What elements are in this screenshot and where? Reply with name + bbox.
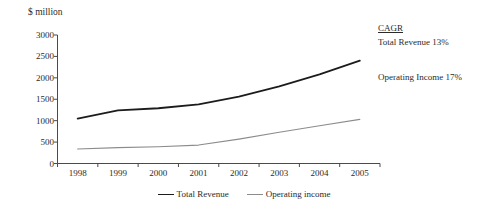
series-line-1 xyxy=(78,119,360,149)
x-axis-tick-labels: 19981999200020012002200320042005 xyxy=(0,168,488,182)
line-chart: $ million 050010001500200025003000 19981… xyxy=(0,0,488,211)
y-axis-ticks xyxy=(54,35,58,164)
legend-line-swatch-icon xyxy=(158,194,174,195)
x-axis-tick-label: 2000 xyxy=(149,168,167,178)
series-lines xyxy=(78,61,360,149)
y-axis-tick-label: 0 xyxy=(24,159,54,169)
cagr-annotation-block: CAGR Total Revenue 13% Operating Income … xyxy=(378,22,488,84)
cagr-title: CAGR xyxy=(378,22,488,35)
legend-line-swatch-icon xyxy=(247,194,263,195)
y-axis-tick-label: 2500 xyxy=(24,51,54,61)
x-axis-tick-label: 2002 xyxy=(230,168,248,178)
y-axis-tick-label: 500 xyxy=(24,137,54,147)
y-axis-tick-label: 2000 xyxy=(24,73,54,83)
x-axis-tick-label: 2004 xyxy=(311,168,329,178)
x-axis-ticks xyxy=(58,164,381,168)
cagr-total-revenue: Total Revenue 13% xyxy=(378,36,488,49)
y-axis-tick-label: 3000 xyxy=(24,30,54,40)
y-axis-tick-label: 1000 xyxy=(24,116,54,126)
chart-legend: Total RevenueOperating income xyxy=(0,189,488,199)
series-line-0 xyxy=(78,61,360,119)
x-axis-tick-label: 2005 xyxy=(351,168,369,178)
y-axis-tick-label: 1500 xyxy=(24,94,54,104)
x-axis-tick-label: 1999 xyxy=(109,168,127,178)
cagr-operating-income: Operating Income 17% xyxy=(378,71,488,84)
legend-item-label: Operating income xyxy=(266,189,331,199)
x-axis-tick-label: 1998 xyxy=(69,168,87,178)
cagr-spacer xyxy=(378,49,488,71)
x-axis-tick-label: 2003 xyxy=(270,168,288,178)
legend-item-label: Total Revenue xyxy=(177,189,229,199)
x-axis-tick-label: 2001 xyxy=(190,168,208,178)
legend-item-0[interactable]: Total Revenue xyxy=(158,189,229,199)
legend-item-1[interactable]: Operating income xyxy=(247,189,331,199)
